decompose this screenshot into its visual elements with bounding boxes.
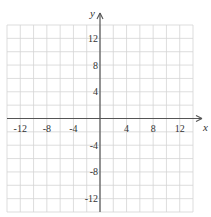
- y-tick-label: -4: [90, 140, 98, 151]
- y-tick-label: -8: [90, 166, 98, 177]
- x-tick-label: -8: [43, 123, 51, 134]
- x-tick-label: 4: [124, 123, 129, 134]
- coordinate-plane: yx -12-8-448121284-4-8-12: [0, 0, 211, 217]
- y-tick-label: -12: [85, 193, 98, 204]
- y-tick-label: 12: [88, 33, 98, 44]
- y-tick-label: 4: [93, 86, 98, 97]
- y-axis-label: y: [89, 7, 95, 19]
- x-axis-label: x: [202, 121, 208, 133]
- x-tick-label: 12: [175, 123, 185, 134]
- y-tick-label: 8: [93, 60, 98, 71]
- x-tick-label: -4: [69, 123, 77, 134]
- axes: yx: [7, 7, 208, 212]
- x-tick-label: 8: [151, 123, 156, 134]
- x-tick-label: -12: [14, 123, 27, 134]
